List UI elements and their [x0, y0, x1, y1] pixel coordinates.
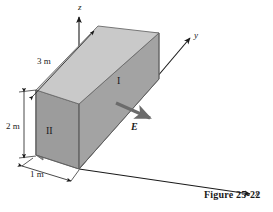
dimension-tick-height-bottom: [19, 156, 36, 158]
dimension-label-length: 3 m: [37, 57, 51, 66]
figure-container: z y x 3 m 2 m 1 m I II E Figure 25-22: [0, 0, 273, 212]
figure-caption: Figure 25-22: [204, 190, 260, 200]
axis-y-label: y: [194, 31, 198, 40]
region-label-two: II: [46, 126, 53, 136]
dimension-label-height: 2 m: [6, 122, 20, 131]
axis-z-label: z: [78, 3, 82, 12]
figure-drawing: [0, 0, 273, 212]
dimension-label-width: 1 m: [30, 170, 44, 179]
dimension-tick-width-right: [71, 170, 79, 181]
electric-field-label: E: [131, 122, 138, 132]
dimension-tick-height-top: [19, 90, 36, 92]
dimension-tick-width-left: [22, 158, 33, 166]
region-label-one: I: [117, 76, 120, 86]
